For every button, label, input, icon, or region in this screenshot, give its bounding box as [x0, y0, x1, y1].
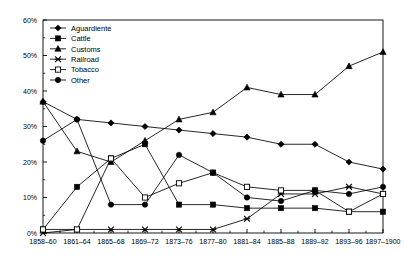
data-point — [74, 184, 79, 189]
x-axis-tick-label: 1885–88 — [267, 238, 294, 245]
marker-square-open — [346, 209, 351, 214]
x-axis-tick-label: 1877–80 — [199, 238, 226, 245]
marker-square-open — [278, 188, 283, 193]
marker-circle — [74, 117, 79, 122]
line-chart: 0%10%20%30%40%50%60%1858–601861–641865–6… — [0, 0, 404, 267]
y-axis-tick-label: 40% — [23, 88, 37, 95]
legend-label: Aguardiente — [71, 24, 111, 33]
marker-circle — [278, 198, 283, 203]
marker-circle — [40, 138, 45, 143]
data-point — [278, 188, 283, 193]
data-point — [312, 188, 317, 193]
data-point — [176, 181, 181, 186]
x-axis-tick-label: 1865–68 — [97, 238, 124, 245]
marker-square-open — [244, 184, 249, 189]
marker-square-filled — [312, 206, 317, 211]
x-axis-tick-label: 1858–60 — [29, 238, 56, 245]
legend-label: Railroad — [71, 55, 99, 64]
legend-marker — [55, 77, 60, 82]
marker-square-open — [108, 156, 113, 161]
y-axis-tick-label: 0% — [27, 230, 37, 237]
data-point — [312, 206, 317, 211]
x-axis-tick-label: 1861–64 — [63, 238, 90, 245]
marker-square-open — [55, 67, 60, 72]
y-axis-tick-label: 20% — [23, 159, 37, 166]
data-point — [244, 184, 249, 189]
data-point — [210, 170, 215, 175]
marker-square-filled — [278, 206, 283, 211]
data-point — [380, 184, 385, 189]
data-point — [142, 195, 147, 200]
legend-marker — [55, 36, 60, 41]
data-point — [74, 117, 79, 122]
marker-square-open — [40, 227, 45, 232]
marker-square-filled — [380, 209, 385, 214]
marker-square-filled — [210, 202, 215, 207]
marker-circle — [108, 202, 113, 207]
x-axis-tick-label: 1869–72 — [131, 238, 158, 245]
data-point — [40, 227, 45, 232]
chart-container: 0%10%20%30%40%50%60%1858–601861–641865–6… — [0, 0, 404, 267]
data-point — [142, 202, 147, 207]
data-point — [380, 191, 385, 196]
x-axis-tick-label: 1881–84 — [233, 238, 260, 245]
legend-label: Cattle — [71, 34, 91, 43]
y-axis-tick-label: 30% — [23, 123, 37, 130]
x-axis-tick-label: 1893–96 — [335, 238, 362, 245]
data-point — [40, 138, 45, 143]
marker-circle — [244, 195, 249, 200]
data-point — [380, 209, 385, 214]
marker-circle — [55, 77, 60, 82]
marker-square-open — [380, 191, 385, 196]
y-axis-tick-label: 10% — [23, 194, 37, 201]
marker-square-open — [142, 195, 147, 200]
data-point — [278, 206, 283, 211]
marker-circle — [346, 191, 351, 196]
data-point — [74, 227, 79, 232]
data-point — [108, 202, 113, 207]
marker-square-filled — [176, 202, 181, 207]
data-point — [244, 206, 249, 211]
marker-square-open — [176, 181, 181, 186]
x-axis-tick-label: 1873–76 — [165, 238, 192, 245]
y-axis-tick-label: 60% — [23, 17, 37, 24]
legend-marker — [55, 67, 60, 72]
x-axis-tick-label: 1889–92 — [301, 238, 328, 245]
marker-square-open — [74, 227, 79, 232]
legend-label: Customs — [71, 45, 101, 54]
data-point — [278, 198, 283, 203]
x-axis-tick-label: 1897–1900 — [365, 238, 400, 245]
y-axis-tick-label: 50% — [23, 52, 37, 59]
marker-square-filled — [244, 206, 249, 211]
marker-square-filled — [55, 36, 60, 41]
data-point — [244, 195, 249, 200]
data-point — [108, 156, 113, 161]
marker-circle — [210, 170, 215, 175]
legend-label: Tobacco — [71, 65, 99, 74]
data-point — [346, 209, 351, 214]
marker-circle — [176, 152, 181, 157]
marker-square-filled — [74, 184, 79, 189]
data-point — [176, 202, 181, 207]
marker-circle — [312, 188, 317, 193]
marker-circle — [142, 202, 147, 207]
data-point — [346, 191, 351, 196]
data-point — [176, 152, 181, 157]
data-point — [210, 202, 215, 207]
legend-label: Other — [71, 76, 90, 85]
marker-circle — [380, 184, 385, 189]
